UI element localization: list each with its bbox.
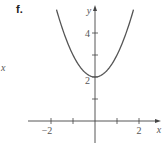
x-tick-label: −2 <box>42 125 53 136</box>
x-axis-arrow-icon <box>155 119 161 123</box>
y-axis-label: y <box>86 5 92 16</box>
y-axis-arrow-icon <box>93 5 97 11</box>
x-axis-label: x <box>156 124 162 135</box>
chart-plot: −2224xy <box>0 0 163 150</box>
y-tick-label: 4 <box>85 28 90 39</box>
y-tick-label: 2 <box>85 75 90 86</box>
x-tick-label: 2 <box>137 125 142 136</box>
